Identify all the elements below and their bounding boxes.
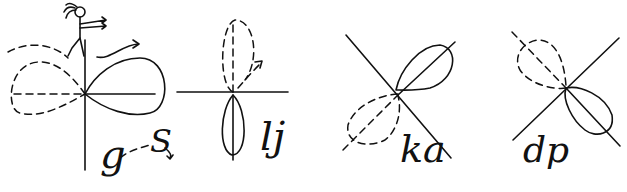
dashed-lobe [518, 40, 566, 88]
solid-lobe [85, 58, 165, 114]
motion-arrow [97, 44, 138, 57]
upper-dashed-lobe [223, 20, 254, 92]
panel-2: lj [177, 20, 288, 160]
diagram-canvas: g S lj ka dp [0, 0, 627, 192]
diagonal-axis-dashed [512, 32, 566, 88]
dashed-lobe [11, 62, 85, 114]
dashed-arc [8, 45, 68, 58]
panel-4: dp [512, 32, 620, 170]
label-ka: ka [400, 127, 446, 171]
dashed-arrow-line [238, 64, 260, 88]
label-dp: dp [523, 129, 569, 170]
panel-3: ka [343, 35, 455, 171]
panel-1: g S [8, 4, 173, 177]
label-g: g [100, 131, 126, 177]
label-s: S [150, 122, 172, 160]
label-lj: lj [260, 113, 285, 159]
diagonal-axis-ascending [398, 42, 455, 95]
diagonal-axis-dashed [343, 95, 398, 150]
